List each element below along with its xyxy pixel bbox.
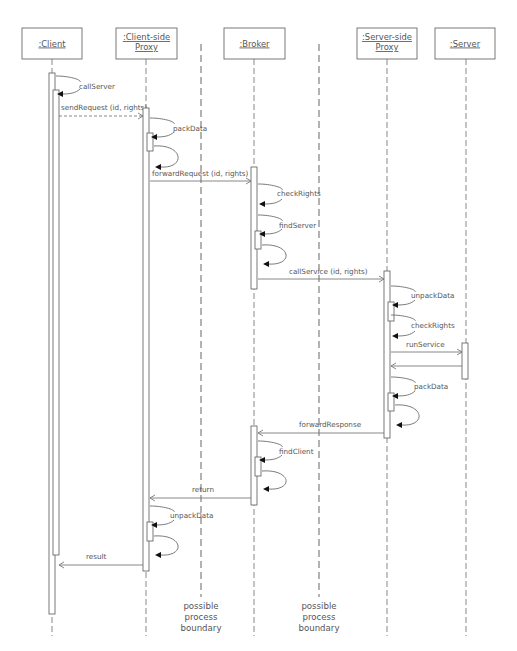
self-call: packData xyxy=(150,118,207,140)
boundary-label: process xyxy=(184,612,218,622)
filled-arrowhead-icon xyxy=(263,261,269,267)
activation-bar xyxy=(384,271,390,438)
self-call-curve xyxy=(395,405,419,425)
message-label: return xyxy=(192,485,214,494)
self-call-curve xyxy=(154,146,178,167)
object-label: Proxy xyxy=(376,42,399,52)
self-call-curve xyxy=(262,471,286,489)
self-call xyxy=(262,245,286,267)
filled-arrowhead-icon xyxy=(259,201,265,207)
self-call-label: checkRights xyxy=(411,321,455,330)
self-call xyxy=(395,405,419,428)
message-arrow: runService xyxy=(391,340,462,355)
self-call xyxy=(154,146,178,170)
self-call xyxy=(262,471,286,492)
self-call-curve xyxy=(154,536,178,555)
self-call-label: packData xyxy=(173,124,207,133)
filled-arrowhead-icon xyxy=(396,422,402,428)
object-label: :Client xyxy=(38,39,66,49)
object-label: :Client-side xyxy=(123,32,170,42)
message-arrow: callService (id, rights) xyxy=(258,267,384,282)
self-call-label: findServer xyxy=(279,221,316,230)
activation-bar xyxy=(53,90,59,555)
process-boundary: possibleprocessboundary xyxy=(299,44,340,633)
self-call: checkRights xyxy=(391,315,455,339)
self-call-curve xyxy=(262,245,286,264)
self-call-label: findClient xyxy=(279,447,314,456)
object-label: :Server-side xyxy=(362,32,412,42)
boundary-label: boundary xyxy=(299,623,340,633)
message-label: forwardResponse xyxy=(299,420,362,429)
filled-arrowhead-icon xyxy=(155,552,161,558)
object-client: :Client xyxy=(22,28,82,59)
boundary-label: possible xyxy=(301,601,336,611)
message-arrow: forwardResponse xyxy=(258,420,384,436)
self-call xyxy=(154,536,178,558)
sequence-diagram: possibleprocessboundarypossibleprocessbo… xyxy=(0,0,517,651)
message-label: forwardRequest (id, rights) xyxy=(152,169,249,178)
self-call: findClient xyxy=(258,441,314,463)
activation-bar xyxy=(143,108,149,571)
self-call-curve xyxy=(56,76,80,94)
self-call-label: callServer xyxy=(79,82,115,91)
object-client-proxy: :Client-sideProxy xyxy=(116,28,177,59)
self-call: checkRights xyxy=(258,184,321,207)
object-server: :Server xyxy=(435,28,495,59)
activation-bar xyxy=(462,343,468,379)
lifelines xyxy=(52,59,466,636)
boundary-label: boundary xyxy=(181,623,222,633)
object-label: :Broker xyxy=(239,39,270,49)
filled-arrowhead-icon xyxy=(392,333,398,339)
self-call: unpackData xyxy=(150,506,213,528)
self-call-label: unpackData xyxy=(170,511,213,520)
self-call-label: unpackData xyxy=(411,291,454,300)
boundary-label: possible xyxy=(183,601,218,611)
object-label: Proxy xyxy=(135,42,158,52)
message-label: result xyxy=(86,552,107,561)
object-broker: :Broker xyxy=(224,28,285,59)
objects: :Client:Client-sideProxy:Broker:Server-s… xyxy=(22,28,495,59)
self-call: packData xyxy=(391,377,448,399)
self-call: findServer xyxy=(258,215,316,237)
message-arrow: result xyxy=(59,552,143,568)
self-call-curve xyxy=(150,118,174,137)
object-label: :Server xyxy=(450,39,481,49)
message-label: callService (id, rights) xyxy=(289,267,368,276)
self-call: unpackData xyxy=(391,286,454,308)
self-call-curve xyxy=(391,377,415,396)
boundary-label: process xyxy=(302,612,336,622)
message-label: runService xyxy=(406,340,445,349)
self-call-label: checkRights xyxy=(277,189,321,198)
message-label: sendRequest (id, rights) xyxy=(61,103,147,112)
self-call-label: packData xyxy=(414,382,448,391)
activation-bar xyxy=(147,133,153,151)
message-arrow xyxy=(391,363,462,369)
filled-arrowhead-icon xyxy=(263,486,269,492)
activation-bar xyxy=(251,167,257,289)
object-server-proxy: :Server-sideProxy xyxy=(357,28,417,59)
message-arrow: sendRequest (id, rights) xyxy=(59,103,147,119)
self-call: callServer xyxy=(56,76,115,97)
